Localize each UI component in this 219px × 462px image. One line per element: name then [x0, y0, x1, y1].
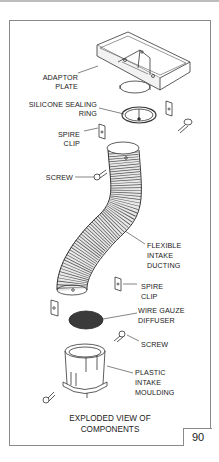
label-ducting-1: FLEXIBLE [147, 241, 181, 250]
label-moulding-1: PLASTIC [135, 368, 166, 377]
label-ducting-3: DUCTING [147, 261, 180, 270]
label-gauze-2: DIFFUSER [138, 316, 175, 325]
caption-line-2: COMPONENTS [45, 424, 175, 435]
screw-left-drawing [94, 170, 107, 180]
label-gauze-1: WIRE GAUZE [138, 306, 185, 315]
figure-caption: EXPLODED VIEW OF COMPONENTS [45, 413, 175, 435]
caption-line-1: EXPLODED VIEW OF [45, 413, 175, 424]
label-ducting-2: INTAKE [147, 251, 173, 260]
label-spire-clip-mid-2: CLIP [141, 292, 157, 301]
label-spire-clip-top-2: CLIP [48, 139, 80, 148]
label-silicone-ring-1: SILICONE SEALING [17, 100, 97, 109]
label-adaptor-plate-1: ADAPTOR [34, 73, 78, 82]
spire-clip-top-right-drawing [166, 101, 172, 116]
flexible-ducting-drawing [57, 142, 141, 295]
spire-clip-top-left-drawing [99, 124, 105, 139]
silicone-ring-drawing [122, 107, 156, 123]
screw-bottom-left-drawing [43, 392, 55, 403]
spire-clip-mid-drawing [115, 277, 121, 291]
label-silicone-ring-2: RING [17, 109, 97, 118]
wire-gauze-diffuser-drawing [69, 311, 103, 329]
label-screw-top: SCREW [40, 173, 73, 182]
spire-clip-bottom-left-drawing [51, 300, 58, 316]
label-adaptor-plate-2: PLATE [34, 82, 78, 91]
plastic-intake-moulding-drawing [63, 344, 107, 398]
adaptor-plate-drawing [97, 32, 190, 93]
label-spire-clip-top-1: SPIRE [48, 130, 80, 139]
screw-top-right-drawing [178, 119, 192, 133]
screw-bottom-right-drawing [114, 331, 125, 342]
label-moulding-3: MOULDING [135, 388, 175, 397]
label-spire-clip-mid-1: SPIRE [141, 282, 163, 291]
label-moulding-2: INTAKE [135, 378, 161, 387]
figure-number-badge: 90 [183, 428, 212, 446]
exploded-diagram [0, 0, 219, 462]
label-screw-bottom: SCREW [141, 340, 168, 349]
